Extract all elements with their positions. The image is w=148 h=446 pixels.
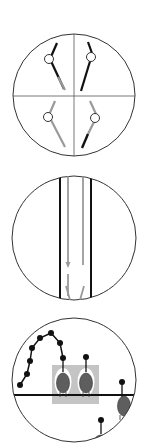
- bead-dot: [119, 379, 125, 385]
- centromere-icon: [45, 55, 54, 64]
- oval-body: [57, 373, 70, 393]
- centromere-icon: [87, 53, 96, 62]
- quadrant-bottom-right: [82, 101, 100, 148]
- panel-2-outline: [12, 176, 136, 300]
- oval-body: [95, 435, 108, 446]
- oval-body: [80, 373, 93, 393]
- centromere-icon: [44, 113, 53, 122]
- quadrant-top-left: [45, 43, 66, 90]
- arrow-down-icon: [66, 262, 71, 268]
- panel-2-parallel-strands: [12, 170, 136, 305]
- panel-3-bead-chain: [10, 318, 140, 446]
- figure-canvas: [0, 0, 148, 446]
- bead-dot: [83, 354, 89, 360]
- panel-1-quadrant-circle: [13, 34, 135, 156]
- bead-dot: [98, 417, 104, 423]
- oval-body: [118, 396, 131, 416]
- centromere-icon: [91, 114, 100, 123]
- quadrant-top-right: [81, 42, 96, 91]
- quadrant-bottom-left: [44, 101, 66, 147]
